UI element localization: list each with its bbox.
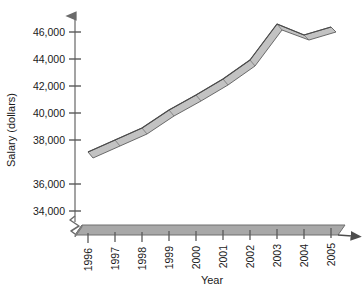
y-axis: 46,000 44,000 42,000 40,000 38,000 36,00… bbox=[5, 16, 81, 222]
data-series-salary bbox=[88, 24, 336, 158]
x-tick-label-1996: 1996 bbox=[82, 248, 94, 272]
y-tick-label-42000: 42,000 bbox=[33, 80, 65, 92]
x-tick-label-1998: 1998 bbox=[136, 247, 148, 271]
y-tick-label-44000: 44,000 bbox=[33, 53, 65, 65]
x-axis-arrow bbox=[338, 235, 352, 236]
x-tick-label-1997: 1997 bbox=[109, 247, 121, 271]
y-tick-label-40000: 40,000 bbox=[33, 107, 65, 119]
chart-canvas: 46,000 44,000 42,000 40,000 38,000 36,00… bbox=[0, 0, 362, 288]
y-tick-label-38000: 38,000 bbox=[33, 134, 65, 146]
y-tick-label-36000: 36,000 bbox=[33, 178, 65, 190]
x-tick-label-2002: 2002 bbox=[244, 245, 256, 269]
x-tick-label-1999: 1999 bbox=[163, 246, 175, 270]
x-tick-label-2005: 2005 bbox=[325, 243, 337, 267]
y-axis-title: Salary (dollars) bbox=[5, 93, 17, 167]
x-tick-label-2000: 2000 bbox=[190, 246, 202, 270]
series-ribbon-fill bbox=[88, 24, 336, 158]
x-axis-title: Year bbox=[201, 274, 224, 286]
salary-line-chart: 46,000 44,000 42,000 40,000 38,000 36,00… bbox=[0, 0, 362, 288]
x-axis: 1996 1997 1998 1999 2000 2001 2002 2003 … bbox=[75, 225, 352, 286]
x-tick-label-2004: 2004 bbox=[298, 244, 310, 268]
x-tick-label-2003: 2003 bbox=[271, 244, 283, 268]
y-tick-label-34000: 34,000 bbox=[33, 205, 65, 217]
x-tick-label-2001: 2001 bbox=[217, 245, 229, 269]
y-tick-label-46000: 46,000 bbox=[33, 26, 65, 38]
